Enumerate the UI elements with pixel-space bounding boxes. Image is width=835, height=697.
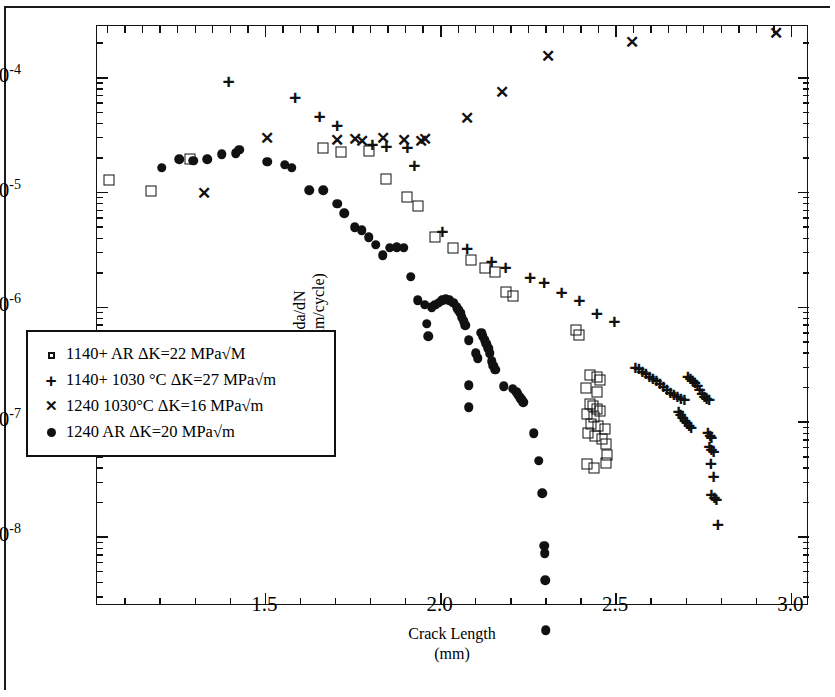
legend-label: 1240 1030°C ΔK=16 MPa√m <box>66 396 263 416</box>
y-tick-label: 10-5 <box>0 178 21 201</box>
y-tick-label: 10-8 <box>0 522 21 545</box>
data-point <box>399 243 409 253</box>
x-tick-minor-top <box>387 26 388 33</box>
data-point <box>304 185 314 195</box>
x-tick-label: 1.5 <box>251 592 277 617</box>
y-tick-minor <box>97 95 103 96</box>
x-tick-minor-top <box>282 26 283 33</box>
y-tick-minor <box>803 447 809 448</box>
y-tick-major <box>798 77 809 79</box>
x-tick-minor-top <box>124 26 125 33</box>
x-tick-minor <box>300 598 301 604</box>
y-tick-minor <box>803 82 809 83</box>
data-point: + <box>608 311 620 332</box>
legend-item: 1140+ AR ΔK=22 MPa√M <box>36 341 328 367</box>
y-tick-minor <box>803 571 809 572</box>
y-tick-minor <box>803 439 809 440</box>
y-tick-minor <box>803 352 809 353</box>
legend-marker-plus-icon: + <box>36 371 66 390</box>
y-tick-minor <box>803 324 809 325</box>
x-axis-title-main: Crack Length <box>96 624 808 644</box>
data-point <box>262 157 272 167</box>
legend: 1140+ AR ΔK=22 MPa√M+1140+ 1030 °C ΔK=27… <box>26 330 336 457</box>
y-tick-minor <box>97 102 103 103</box>
y-tick-minor <box>803 456 809 457</box>
y-tick-minor <box>803 112 809 113</box>
legend-label: 1140+ AR ΔK=22 MPa√M <box>66 344 245 364</box>
legend-label: 1240 AR ΔK=20 MPa√m <box>66 422 235 442</box>
legend-item: +1140+ 1030 °C ΔK=27 MPa√m <box>36 367 328 393</box>
x-tick-minor-top <box>773 26 774 33</box>
data-point <box>473 354 483 364</box>
legend-marker-open-square-icon <box>36 347 66 362</box>
data-point: + <box>222 71 234 92</box>
y-tick-minor <box>803 217 809 218</box>
x-tick-minor-top <box>545 26 546 33</box>
y-tick-major <box>798 192 809 194</box>
x-tick-minor <box>756 598 757 604</box>
data-point <box>189 156 199 166</box>
x-tick-minor-top <box>247 26 248 33</box>
data-point <box>371 240 381 250</box>
y-tick-minor <box>97 112 103 113</box>
x-tick-minor-top <box>756 26 757 33</box>
data-point <box>157 163 167 173</box>
x-tick-minor-top <box>212 26 213 33</box>
x-tick-label: 3.0 <box>777 592 803 617</box>
y-tick-minor <box>803 42 809 43</box>
plot-area: ++++++++++++++++++++++++++++++++++++++++… <box>97 26 807 604</box>
data-point <box>318 185 328 195</box>
x-tick-label: 2.0 <box>427 592 453 617</box>
y-tick-minor <box>803 548 809 549</box>
data-point: ✕ <box>330 132 344 149</box>
data-point <box>534 456 544 466</box>
data-point: + <box>556 282 568 303</box>
data-point <box>424 332 434 342</box>
data-point <box>574 329 585 340</box>
y-tick-minor <box>97 582 103 583</box>
y-tick-minor <box>803 197 809 198</box>
y-tick-minor <box>97 571 103 572</box>
data-point: + <box>573 290 585 311</box>
data-point <box>381 174 392 185</box>
data-point <box>234 145 244 155</box>
x-tick-major-top <box>791 26 793 37</box>
y-tick-minor <box>803 157 809 158</box>
y-tick-minor <box>803 88 809 89</box>
y-tick-minor <box>803 582 809 583</box>
y-tick-minor <box>97 252 103 253</box>
data-point <box>448 242 459 253</box>
y-tick-minor <box>97 82 103 83</box>
data-point <box>589 462 600 473</box>
y-tick-label: 10-7 <box>0 407 21 430</box>
x-tick-minor <box>159 598 160 604</box>
data-point <box>464 403 474 413</box>
y-tick-minor <box>97 272 103 273</box>
y-tick-minor <box>97 238 103 239</box>
y-tick-major <box>798 421 809 423</box>
data-point <box>538 489 548 499</box>
data-point: ✕ <box>460 109 474 126</box>
y-tick-major <box>97 77 108 79</box>
data-point <box>104 175 115 186</box>
y-tick-minor <box>97 88 103 89</box>
data-point: + <box>538 272 550 293</box>
data-point <box>540 576 550 586</box>
plot-frame: ++++++++++++++++++++++++++++++++++++++++… <box>96 25 808 605</box>
y-tick-minor <box>803 332 809 333</box>
x-tick-minor-top <box>195 26 196 33</box>
y-tick-major <box>97 192 108 194</box>
x-tick-minor-top <box>686 26 687 33</box>
x-tick-major-top <box>265 26 267 37</box>
data-point <box>518 397 528 407</box>
data-point: + <box>499 256 511 277</box>
y-tick-minor <box>803 467 809 468</box>
y-tick-minor <box>97 482 103 483</box>
y-tick-minor <box>803 596 809 597</box>
legend-item: ✕1240 1030°C ΔK=16 MPa√m <box>36 393 328 419</box>
y-tick-major <box>798 307 809 309</box>
data-point <box>406 272 416 282</box>
data-point: + <box>461 237 473 258</box>
legend-item: 1240 AR ΔK=20 MPa√m <box>36 419 328 445</box>
legend-label: 1140+ 1030 °C ΔK=27 MPa√m <box>66 370 276 390</box>
